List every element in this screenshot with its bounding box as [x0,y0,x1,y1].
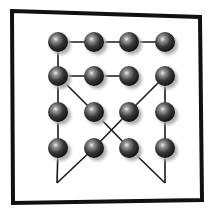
node-ball-icon [119,66,139,86]
diagram-canvas [0,0,214,214]
node-ball-icon [119,138,139,158]
node-ball-icon [48,138,68,158]
node-ball-icon [119,32,139,52]
node-ball-icon [84,102,104,122]
node-ball-icon [84,66,104,86]
node-ball-icon [48,32,68,52]
node-ball-icon [48,102,68,122]
node-ball-icon [155,138,175,158]
node-ball-icon [119,102,139,122]
node-ball-icon [48,66,68,86]
node-ball-icon [155,32,175,52]
node-ball-icon [84,32,104,52]
node-ball-icon [155,102,175,122]
node-ball-icon [84,138,104,158]
node-ball-icon [155,66,175,86]
